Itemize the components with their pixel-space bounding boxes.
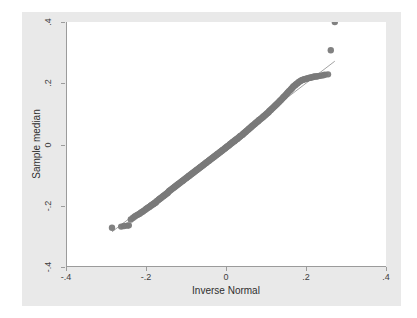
x-tick <box>386 267 387 271</box>
data-point <box>328 47 334 53</box>
y-tick-label: .4 <box>43 18 53 26</box>
y-tick-label: .2 <box>43 79 53 87</box>
data-point <box>325 71 331 77</box>
x-tick-label: -.2 <box>141 272 152 282</box>
y-tick <box>61 206 65 207</box>
data-point <box>126 222 132 228</box>
qq-plot-figure: -.4-.20.2.4-.4-.20.2.4 Inverse Normal Sa… <box>0 0 417 318</box>
y-tick <box>61 145 65 146</box>
x-tick-label: .2 <box>302 272 310 282</box>
data-point <box>109 225 115 231</box>
x-tick-label: -.4 <box>61 272 72 282</box>
y-tick-label: -.2 <box>43 200 53 211</box>
x-tick <box>146 267 147 271</box>
plot-canvas <box>66 22 386 267</box>
x-tick <box>306 267 307 271</box>
y-tick <box>61 83 65 84</box>
qq-point-series <box>109 22 338 231</box>
y-axis-title: Sample median <box>31 109 42 178</box>
x-tick <box>226 267 227 271</box>
y-tick-label: -.4 <box>43 262 53 273</box>
x-axis-title: Inverse Normal <box>66 285 386 296</box>
x-tick <box>66 267 67 271</box>
y-tick <box>61 267 65 268</box>
y-tick <box>61 22 65 23</box>
data-point <box>332 22 338 25</box>
y-tick-label: 0 <box>43 142 53 147</box>
x-tick-label: 0 <box>223 272 228 282</box>
x-tick-label: .4 <box>382 272 390 282</box>
